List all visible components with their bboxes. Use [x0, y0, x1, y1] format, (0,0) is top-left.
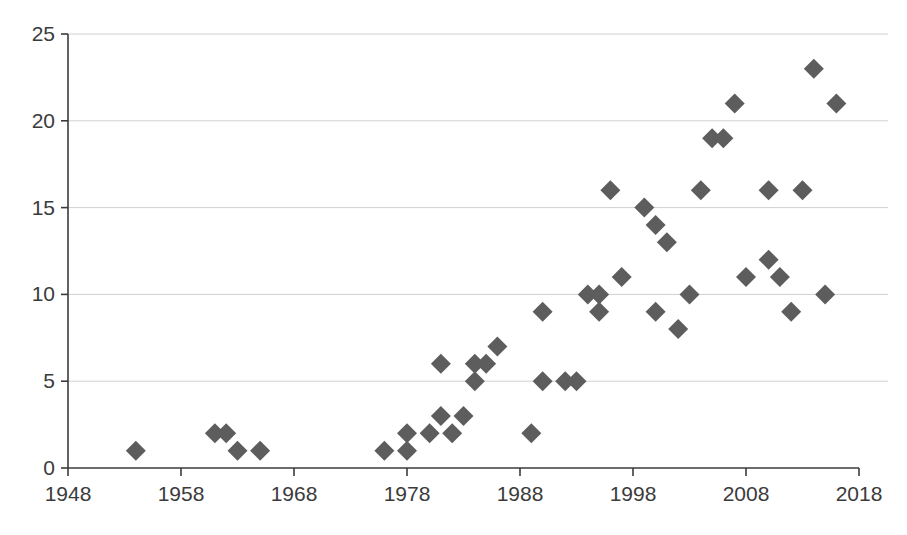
data-point [476, 354, 496, 374]
data-point [431, 406, 451, 426]
data-point [793, 180, 813, 200]
data-point [657, 232, 677, 252]
data-point [725, 93, 745, 113]
x-axis-tick-labels: 19481958196819781988199820082018 [45, 482, 883, 505]
data-point [713, 128, 733, 148]
data-point [567, 371, 587, 391]
data-point [431, 354, 451, 374]
y-tick-label-0: 0 [43, 456, 55, 479]
data-point [646, 302, 666, 322]
data-point [250, 441, 270, 461]
data-point [634, 198, 654, 218]
data-point [736, 267, 756, 287]
data-point [397, 441, 417, 461]
y-axis-ticks [61, 34, 68, 468]
data-point [691, 180, 711, 200]
scatter-chart: 0510152025 19481958196819781988199820082… [0, 0, 907, 535]
data-point [815, 284, 835, 304]
y-tick-label-20: 20 [32, 109, 55, 132]
data-point [465, 371, 485, 391]
gridlines [68, 34, 888, 381]
x-tick-label-1958: 1958 [158, 482, 205, 505]
x-tick-label-1978: 1978 [384, 482, 431, 505]
data-point [668, 319, 688, 339]
data-point [770, 267, 790, 287]
data-point [826, 93, 846, 113]
data-point [521, 423, 541, 443]
y-axis-tick-labels: 0510152025 [32, 22, 55, 479]
data-point [397, 423, 417, 443]
x-tick-label-1988: 1988 [497, 482, 544, 505]
x-tick-label-1998: 1998 [610, 482, 657, 505]
data-point [228, 441, 248, 461]
x-tick-label-1968: 1968 [271, 482, 318, 505]
data-point [759, 180, 779, 200]
data-point [420, 423, 440, 443]
data-point [454, 406, 474, 426]
y-tick-label-5: 5 [43, 369, 55, 392]
data-point-markers [126, 59, 847, 461]
data-point [646, 215, 666, 235]
y-tick-label-15: 15 [32, 196, 55, 219]
data-point [126, 441, 146, 461]
x-tick-label-2018: 2018 [836, 482, 883, 505]
data-point [804, 59, 824, 79]
x-axis-ticks [68, 468, 859, 476]
data-point [533, 302, 553, 322]
data-point [781, 302, 801, 322]
y-tick-label-25: 25 [32, 22, 55, 45]
data-point [612, 267, 632, 287]
data-point [487, 336, 507, 356]
data-point [442, 423, 462, 443]
data-point [533, 371, 553, 391]
x-tick-label-1948: 1948 [45, 482, 92, 505]
plot-area: 0510152025 19481958196819781988199820082… [0, 0, 907, 535]
data-point [374, 441, 394, 461]
data-point [589, 284, 609, 304]
data-point [589, 302, 609, 322]
data-point [680, 284, 700, 304]
data-point [759, 250, 779, 270]
data-point [216, 423, 236, 443]
x-tick-label-2008: 2008 [723, 482, 770, 505]
y-tick-label-10: 10 [32, 282, 55, 305]
data-point [600, 180, 620, 200]
